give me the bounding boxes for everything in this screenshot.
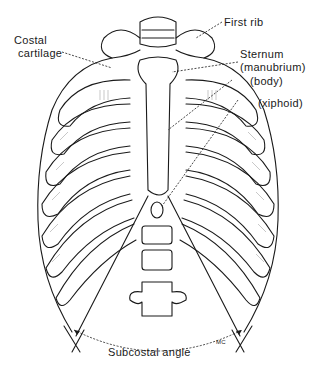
label-first-rib: First rib xyxy=(224,16,263,28)
label-body: (body) xyxy=(250,75,283,87)
label-manubrium: (manubrium) xyxy=(240,61,306,73)
artist-initials: MC xyxy=(216,336,226,348)
label-costal-line2: cartilage xyxy=(18,47,62,59)
label-subcostal-angle: Subcostal angle xyxy=(108,346,191,358)
label-sternum: Sternum xyxy=(240,48,284,60)
label-xiphoid: (xiphoid) xyxy=(258,97,303,109)
rib-cage-diagram: Costal cartilage First rib Sternum (manu… xyxy=(0,0,316,379)
label-costal-line1: Costal xyxy=(14,34,47,46)
